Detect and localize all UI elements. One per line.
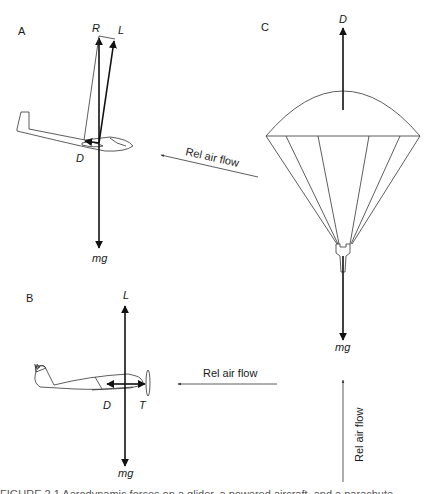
- panel-b: B L D T mg Rel air flow: [26, 289, 277, 479]
- airflow-label: Rel air flow: [203, 367, 257, 379]
- force-diagram: A R L D mg Rel air flow B: [0, 0, 436, 494]
- construction-line: [84, 36, 99, 140]
- lift-label: L: [118, 24, 124, 36]
- weight-label: mg: [118, 467, 134, 479]
- drag-label: D: [103, 399, 111, 411]
- aircraft-icon: [35, 364, 150, 396]
- drag-label: D: [339, 13, 347, 25]
- airflow-label: Rel air flow: [353, 408, 365, 462]
- lift-label: L: [123, 289, 129, 301]
- weight-label: mg: [92, 252, 108, 264]
- figure-caption: FIGURE 2.1 Aerodynamic forces on a glide…: [0, 486, 436, 494]
- resultant-label: R: [92, 22, 100, 34]
- panel-b-label: B: [26, 292, 33, 304]
- weight-label: mg: [335, 341, 351, 353]
- drag-force-arrow: [85, 141, 99, 143]
- panel-c: C D mg Rel air flow: [261, 13, 420, 482]
- construction-line: [99, 36, 115, 39]
- lift-force-arrow: [99, 41, 114, 143]
- glider-icon: [17, 112, 133, 151]
- panel-a-label: A: [18, 25, 26, 37]
- panel-a: A R L D mg Rel air flow: [17, 22, 258, 264]
- thrust-label: T: [139, 399, 147, 411]
- airflow-label: Rel air flow: [185, 145, 241, 169]
- parachute-icon: [266, 91, 420, 272]
- drag-label: D: [76, 152, 84, 164]
- panel-c-label: C: [261, 21, 269, 33]
